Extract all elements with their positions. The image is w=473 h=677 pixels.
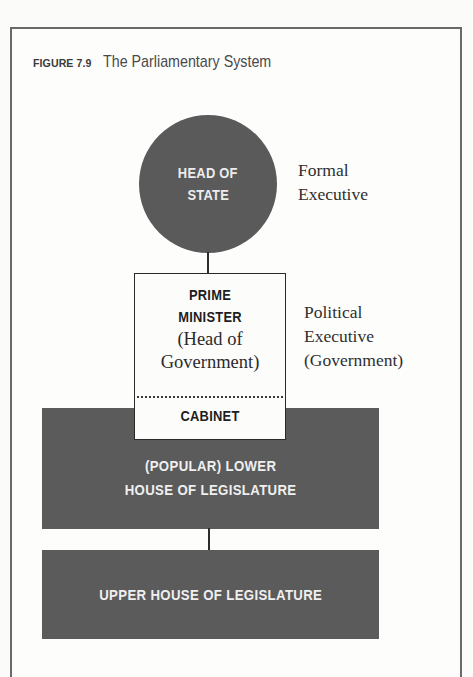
political-executive-line1: Political: [304, 300, 403, 324]
upper-house-node: UPPER HOUSE OF LEGISLATURE: [42, 550, 379, 639]
pm-sub-line1: (Head of: [135, 328, 285, 351]
connector-head-to-pm: [207, 252, 209, 274]
head-of-state-line1: HEAD OF: [178, 162, 238, 184]
lower-house-line2: HOUSE OF LEGISLATURE: [125, 478, 297, 502]
formal-executive-label: Formal Executive: [298, 158, 368, 206]
figure-number: FIGURE 7.9: [33, 57, 92, 69]
formal-executive-line1: Formal: [298, 158, 368, 182]
figure-title: The Parliamentary System: [103, 52, 271, 72]
pm-title-line2: MINISTER: [146, 306, 275, 328]
political-executive-label: Political Executive (Government): [304, 300, 403, 372]
figure-caption: FIGURE 7.9 The Parliamentary System: [33, 52, 303, 72]
pm-cabinet-divider: [137, 396, 283, 398]
head-of-state-node: HEAD OF STATE: [139, 115, 277, 253]
political-executive-line2: Executive: [304, 324, 403, 348]
head-of-state-line2: STATE: [187, 184, 229, 206]
connector-lower-to-upper: [208, 528, 210, 551]
pm-sub-line2: Government): [135, 351, 285, 374]
political-executive-line3: (Government): [304, 348, 403, 372]
formal-executive-line2: Executive: [298, 182, 368, 206]
prime-minister-node: PRIME MINISTER (Head of Government) CABI…: [134, 273, 286, 440]
upper-house-line1: UPPER HOUSE OF LEGISLATURE: [99, 583, 322, 607]
cabinet-label: CABINET: [146, 405, 275, 427]
pm-title-line1: PRIME: [146, 284, 275, 306]
lower-house-line1: (POPULAR) LOWER: [145, 454, 276, 478]
